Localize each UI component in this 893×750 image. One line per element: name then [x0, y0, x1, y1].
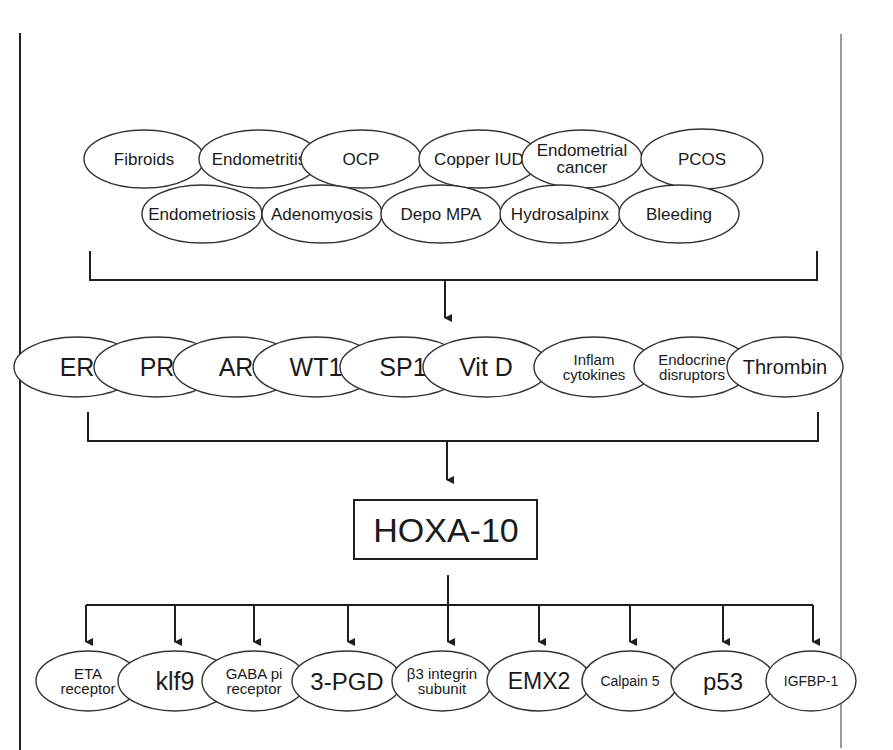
node-label: Endocrine	[658, 351, 726, 368]
node-label: PCOS	[678, 150, 726, 169]
node-label: 3-PGD	[310, 668, 383, 695]
condition-fibroids: Fibroids	[84, 130, 204, 188]
node-label: Endometriosis	[148, 205, 256, 224]
node-label: Endometritis	[212, 150, 306, 169]
node-label: Calpain 5	[600, 673, 659, 689]
node-label: ER	[60, 353, 95, 381]
target-gaba-pi-receptor: GABA pireceptor	[202, 651, 306, 711]
node-label: Bleeding	[646, 205, 712, 224]
target-emx2: EMX2	[487, 651, 591, 711]
node-label: receptor	[226, 680, 281, 697]
node-label: β3 integrin	[407, 665, 477, 682]
mediator-vit-d: Vit D	[423, 337, 549, 397]
condition-adenomyosis: Adenomyosis	[262, 185, 382, 243]
node-label: AR	[219, 353, 254, 381]
target-calpain-5: Calpain 5	[582, 651, 678, 711]
mediators-row: ERPRARWT1SP1Vit DInflamcytokinesEndocrin…	[14, 337, 843, 397]
node-label: PR	[140, 353, 175, 381]
node-label: Fibroids	[114, 150, 174, 169]
condition-endometrial-cancer: Endometrialcancer	[522, 130, 642, 188]
target-3-integrin-subunit: β3 integrinsubunit	[392, 651, 492, 711]
target-arrows	[86, 605, 813, 642]
condition-bleeding: Bleeding	[619, 185, 739, 243]
hoxa10-label: HOXA-10	[373, 511, 519, 549]
node-label: IGFBP-1	[784, 673, 839, 689]
mediators-bracket	[88, 412, 818, 441]
node-label: SP1	[379, 353, 426, 381]
node-label: Thrombin	[743, 356, 827, 378]
condition-ocp: OCP	[301, 130, 421, 188]
mediator-thrombin: Thrombin	[727, 337, 843, 397]
node-label: disruptors	[659, 366, 725, 383]
condition-copper-iud: Copper IUD	[419, 130, 539, 188]
node-label: receptor	[60, 680, 115, 697]
target-p53: p53	[671, 651, 775, 711]
hoxa10-node: HOXA-10	[354, 500, 537, 559]
node-label: Depo MPA	[401, 205, 483, 224]
node-label: Adenomyosis	[271, 205, 373, 224]
node-label: GABA pi	[226, 665, 283, 682]
node-label: Vit D	[459, 353, 513, 381]
condition-hydrosalpinx: Hydrosalpinx	[500, 185, 620, 243]
targets-row: ETAreceptorklf9GABA pireceptor3-PGDβ3 in…	[36, 651, 856, 711]
condition-depo-mpa: Depo MPA	[381, 185, 501, 243]
condition-pcos: PCOS	[641, 129, 763, 189]
conditions-row-1: FibroidsEndometritisOCPCopper IUDEndomet…	[84, 129, 763, 189]
node-label: Copper IUD	[434, 150, 524, 169]
node-label: cytokines	[563, 366, 626, 383]
node-label: ETA	[74, 665, 102, 682]
node-label: OCP	[343, 150, 380, 169]
condition-endometriosis: Endometriosis	[142, 185, 262, 243]
node-label: Endometrial	[537, 141, 628, 160]
node-label: p53	[703, 668, 743, 695]
conditions-row-2: EndometriosisAdenomyosisDepo MPAHydrosal…	[142, 185, 739, 243]
target-igfbp-1: IGFBP-1	[766, 651, 856, 711]
hoxa10-regulation-diagram: FibroidsEndometritisOCPCopper IUDEndomet…	[0, 0, 893, 750]
node-label: WT1	[290, 353, 343, 381]
node-label: cancer	[556, 158, 607, 177]
node-label: klf9	[156, 667, 195, 695]
target-3-pgd: 3-PGD	[292, 651, 402, 711]
conditions-bracket	[90, 251, 817, 280]
node-label: Inflam	[574, 351, 615, 368]
node-label: EMX2	[508, 668, 571, 694]
node-label: Hydrosalpinx	[511, 205, 610, 224]
node-label: subunit	[418, 680, 467, 697]
